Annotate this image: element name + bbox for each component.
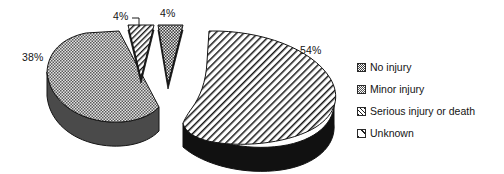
data-label-serious-injury: 4% <box>113 11 128 22</box>
pie-chart: 38% 4% 4% 54% No injury Minor injury Ser… <box>0 0 504 174</box>
legend-label-no-injury: No injury <box>370 62 411 73</box>
legend-label-minor-injury: Minor injury <box>370 84 424 95</box>
legend-swatch-unknown-icon <box>357 129 366 138</box>
legend-item-no-injury: No injury <box>357 56 504 78</box>
legend-swatch-serious-injury-icon <box>357 107 366 116</box>
legend-item-unknown: Unknown <box>357 122 504 144</box>
legend-swatch-minor-injury-icon <box>357 85 366 94</box>
legend-label-serious-injury: Serious injury or death <box>370 106 475 117</box>
legend-swatch-no-injury-icon <box>357 63 366 72</box>
pie-slice-no-injury <box>158 25 183 89</box>
data-label-unknown: 54% <box>300 45 321 56</box>
chart-legend: No injury Minor injury Serious injury or… <box>357 56 504 144</box>
legend-label-unknown: Unknown <box>370 128 414 139</box>
data-label-no-injury: 4% <box>160 8 175 19</box>
data-label-minor-injury: 38% <box>22 52 43 63</box>
legend-item-minor-injury: Minor injury <box>357 78 504 100</box>
legend-item-serious-injury: Serious injury or death <box>357 100 504 122</box>
